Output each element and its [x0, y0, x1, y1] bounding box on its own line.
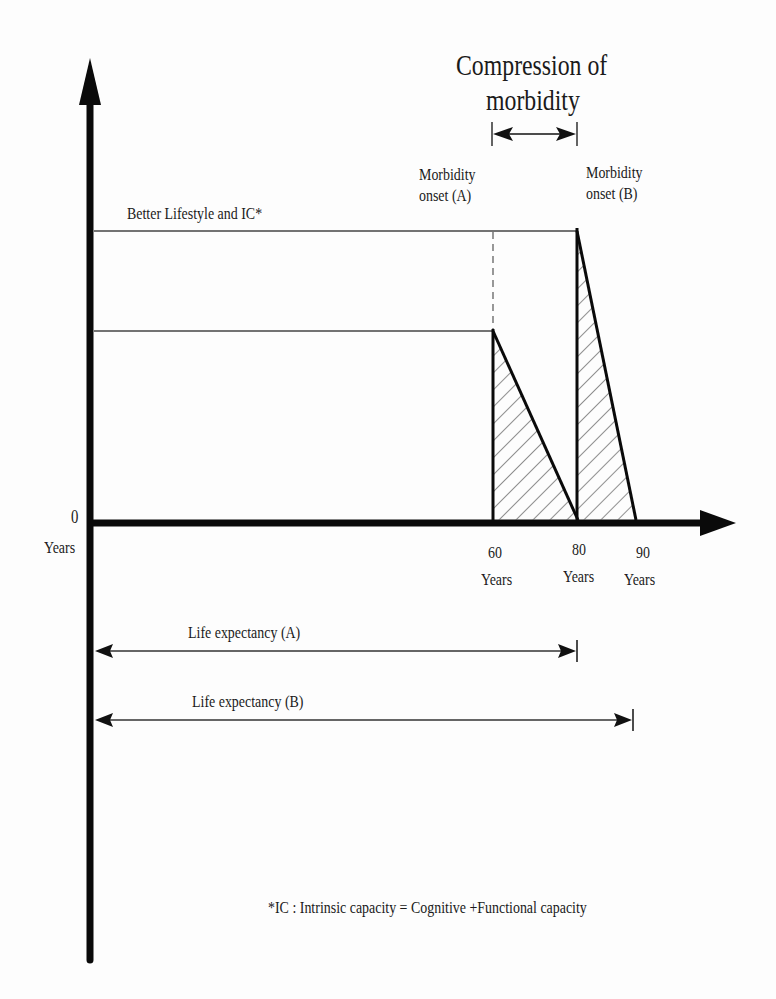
compression-of-morbidity-diagram: Compression of morbidity Morbidity onset…: [0, 0, 776, 999]
diagram-title-line2: morbidity: [486, 85, 580, 117]
compression-arrow: [492, 122, 577, 146]
onset-a-label-line2: onset (A): [419, 187, 471, 206]
x-axis-arrowhead-icon: [700, 510, 736, 536]
x-tick-60-value: 60: [488, 544, 502, 563]
x-tick-80-unit: Years: [563, 568, 594, 587]
footnote: *IC : Intrinsic capacity = Cognitive +Fu…: [268, 899, 587, 918]
life-expectancy-a-label: Life expectancy (A): [188, 624, 300, 643]
onset-b-label-line2: onset (B): [586, 185, 637, 204]
x-tick-60-unit: Years: [481, 571, 512, 590]
x-tick-80-value: 80: [572, 541, 586, 560]
y-axis-arrowhead-icon: [79, 58, 101, 105]
x-axis: [88, 510, 736, 536]
life-expectancy-a-arrow: [95, 640, 577, 662]
x-tick-90-value: 90: [636, 544, 650, 563]
diagram-title-line1: Compression of: [456, 50, 607, 82]
origin-unit: Years: [44, 539, 75, 558]
y-axis: [79, 58, 101, 960]
better-lifestyle-label: Better Lifestyle and IC*: [127, 205, 262, 224]
origin-value: 0: [71, 508, 78, 528]
life-expectancy-b-label: Life expectancy (B): [192, 693, 303, 712]
x-tick-90-unit: Years: [624, 571, 655, 590]
onset-b-label-line1: Morbidity: [586, 164, 643, 183]
onset-a-label-line1: Morbidity: [419, 166, 476, 185]
diagram-canvas: [0, 0, 776, 999]
life-expectancy-b-arrow: [95, 709, 633, 731]
